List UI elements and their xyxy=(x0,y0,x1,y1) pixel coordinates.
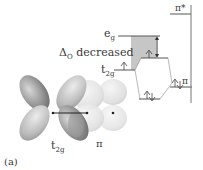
t2g-label: t2g xyxy=(101,64,114,78)
eg-label: eg xyxy=(104,28,115,42)
delta-shaded-region xyxy=(131,36,156,70)
ligand-pi-label: π xyxy=(182,77,188,86)
orbital-lobes xyxy=(13,70,127,146)
ligand-pi-orbital-label: π xyxy=(96,139,103,149)
electron-up-arrow-t2g xyxy=(121,62,127,70)
pi-star-label: π* xyxy=(175,4,185,13)
panel-label: (a) xyxy=(4,157,18,167)
metal-t2g-orbital-label: t2g xyxy=(51,140,64,154)
delta-o-decreased-label: ΔO decreased xyxy=(59,47,133,61)
